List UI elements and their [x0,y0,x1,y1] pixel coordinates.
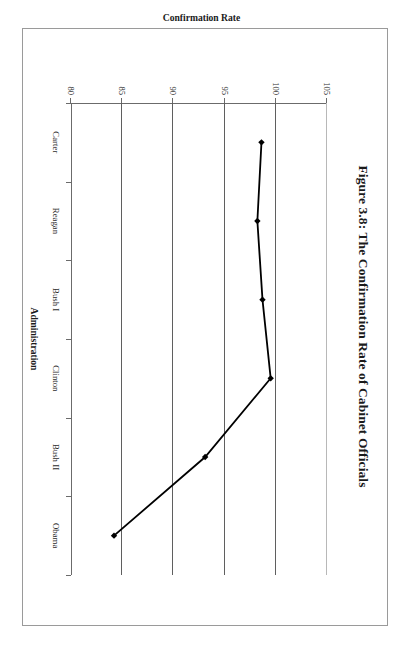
value-axis-tick-label: 100 [271,69,281,95]
category-axis-label: Bush II [51,422,61,492]
value-axis-tick-label: 85 [117,69,127,95]
plot-area: 10510095908580 CarterReaganBush IClinton… [71,103,327,575]
value-axis-tick-label: 80 [66,69,76,95]
value-axis-title: Confirmation Rate [132,12,272,23]
value-axis-tick-label: 95 [220,69,230,95]
category-axis-label: Carter [51,107,61,177]
category-axis-label: Obama [51,501,61,571]
data-point-marker [259,296,265,302]
category-axis-tick [66,575,71,576]
category-axis-label: Reagan [51,186,61,256]
category-axis-label: Clinton [51,343,61,413]
value-axis-tick-label: 90 [168,69,178,95]
chart-area: Figure 3.8: The Confirmation Rate of Cab… [0,0,409,653]
rotated-chart-wrapper: Figure 3.8: The Confirmation Rate of Cab… [0,0,409,653]
figure-page: Figure 3.8: The Confirmation Rate of Cab… [0,0,409,653]
series-line [114,142,271,535]
category-axis-title: Administration [29,103,40,575]
value-axis-tick-label: 105 [322,69,332,95]
data-series-line [71,103,327,575]
data-point-marker [254,218,260,224]
data-point-marker [258,139,264,145]
category-axis-label: Bush I [51,265,61,335]
chart-title: Figure 3.8: The Confirmation Rate of Cab… [355,0,371,653]
